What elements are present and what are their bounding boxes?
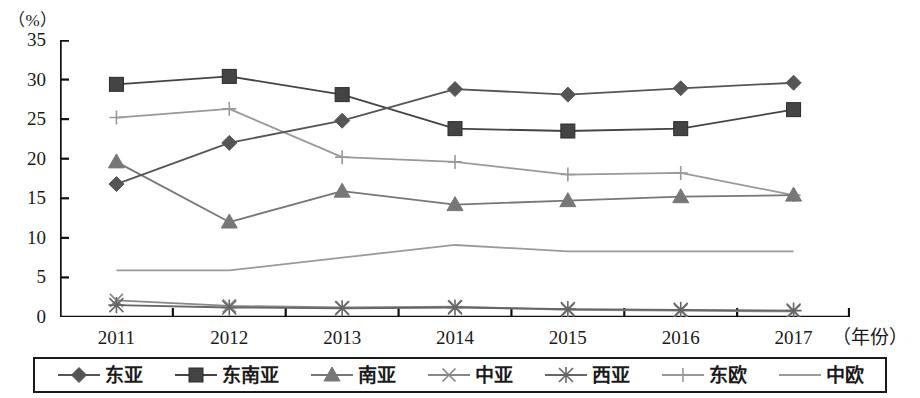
series-西亚 bbox=[108, 297, 801, 317]
x-axis-tick-label: 2016 bbox=[636, 328, 726, 347]
diamond-marker bbox=[560, 87, 575, 102]
y-axis-tick-label: 0 bbox=[12, 307, 46, 326]
legend-item-label: 西亚 bbox=[592, 366, 630, 385]
plus-marker bbox=[448, 155, 462, 169]
cross-marker bbox=[426, 365, 472, 385]
diamond-marker bbox=[673, 81, 688, 96]
line-marker bbox=[777, 365, 823, 385]
y-axis-tick-label: 35 bbox=[12, 30, 46, 49]
legend-item-label: 中欧 bbox=[826, 366, 864, 385]
asterisk-marker bbox=[221, 299, 237, 315]
legend-item[interactable]: 西亚 bbox=[543, 365, 630, 385]
square-marker bbox=[448, 122, 462, 136]
square-marker bbox=[189, 368, 203, 382]
legend-item[interactable]: 东欧 bbox=[660, 365, 747, 385]
legend-item-label: 中亚 bbox=[475, 366, 513, 385]
x-axis-tick-label: 2012 bbox=[184, 328, 274, 347]
y-axis-tick-label: 25 bbox=[12, 109, 46, 128]
diamond-marker bbox=[72, 368, 87, 383]
square-marker bbox=[222, 69, 236, 83]
diamond-marker bbox=[786, 75, 801, 90]
x-axis-unit-label: （年份） bbox=[832, 328, 908, 347]
plus-marker bbox=[676, 368, 690, 382]
plus-marker bbox=[561, 168, 575, 182]
y-axis-tick-label: 5 bbox=[12, 267, 46, 286]
plus-marker bbox=[109, 111, 123, 125]
square-marker bbox=[787, 103, 801, 117]
series-line bbox=[116, 245, 793, 270]
legend-item[interactable]: 东亚 bbox=[56, 365, 143, 385]
y-axis-tick-label: 20 bbox=[12, 149, 46, 168]
asterisk-marker bbox=[334, 300, 350, 316]
legend-item-label: 东欧 bbox=[709, 366, 747, 385]
legend-marker bbox=[324, 367, 340, 381]
legend-marker bbox=[676, 368, 690, 382]
chart-legend: 东亚东南亚南亚中亚西亚东欧中欧 bbox=[33, 357, 887, 393]
diamond-marker bbox=[448, 82, 463, 97]
triangle-marker bbox=[108, 154, 124, 168]
legend-item[interactable]: 东南亚 bbox=[173, 365, 279, 385]
plot-svg bbox=[60, 40, 850, 317]
plus-marker bbox=[660, 365, 706, 385]
triangle-marker bbox=[673, 189, 689, 203]
legend-item-label: 南亚 bbox=[358, 366, 396, 385]
square-marker bbox=[561, 124, 575, 138]
triangle-marker bbox=[334, 183, 350, 197]
asterisk-marker bbox=[560, 301, 576, 317]
series-中欧 bbox=[116, 245, 793, 270]
series-东欧 bbox=[109, 102, 800, 202]
diamond-marker bbox=[109, 177, 124, 192]
x-axis-tick-label: 2015 bbox=[523, 328, 613, 347]
legend-marker bbox=[189, 368, 203, 382]
y-axis-tick-label: 10 bbox=[12, 228, 46, 247]
plus-marker bbox=[674, 166, 688, 180]
triangle-marker bbox=[324, 367, 340, 381]
x-axis-tick-label: 2017 bbox=[749, 328, 839, 347]
x-axis-tick-label: 2011 bbox=[71, 328, 161, 347]
legend-item[interactable]: 南亚 bbox=[309, 365, 396, 385]
x-axis-tick-label: 2013 bbox=[297, 328, 387, 347]
legend-item[interactable]: 中欧 bbox=[777, 365, 864, 385]
square-marker bbox=[335, 88, 349, 102]
square-marker bbox=[109, 77, 123, 91]
asterisk-marker bbox=[558, 367, 574, 383]
y-axis-tick-label: 15 bbox=[12, 188, 46, 207]
legend-item-label: 东南亚 bbox=[222, 366, 279, 385]
square-marker bbox=[173, 365, 219, 385]
y-axis-tick-label: 30 bbox=[12, 70, 46, 89]
line-chart: （%） 05101520253035 201120122013201420152… bbox=[0, 0, 920, 398]
asterisk-marker bbox=[543, 365, 589, 385]
x-axis-tick-label: 2014 bbox=[410, 328, 500, 347]
legend-item-label: 东亚 bbox=[105, 366, 143, 385]
diamond-marker bbox=[222, 135, 237, 150]
plus-marker bbox=[222, 102, 236, 116]
diamond-marker bbox=[56, 365, 102, 385]
y-axis-unit-label: （%） bbox=[8, 6, 58, 31]
diamond-marker bbox=[335, 113, 350, 128]
asterisk-marker bbox=[108, 297, 124, 313]
plus-marker bbox=[335, 150, 349, 164]
triangle-marker bbox=[309, 365, 355, 385]
plot-area bbox=[60, 40, 850, 317]
asterisk-marker bbox=[447, 299, 463, 315]
legend-marker bbox=[558, 367, 574, 383]
legend-marker bbox=[72, 368, 87, 383]
legend-item[interactable]: 中亚 bbox=[426, 365, 513, 385]
series-东南亚 bbox=[109, 69, 800, 138]
square-marker bbox=[674, 122, 688, 136]
asterisk-marker bbox=[673, 302, 689, 317]
series-line bbox=[116, 162, 793, 222]
